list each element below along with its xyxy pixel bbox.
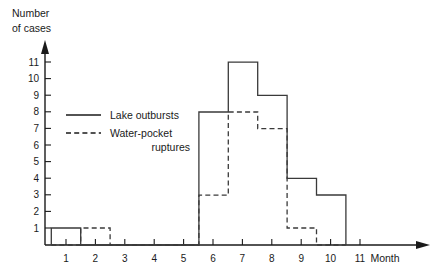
x-tick-label: 1 [63,253,69,264]
y-tick-label: 5 [33,156,39,167]
chart-container: 11 10 9 8 7 6 5 4 3 2 1 1 [0,0,443,277]
y-tick-label: 3 [33,189,39,200]
legend-label-water-pocket-line2: ruptures [151,141,190,153]
y-axis-title: Number of cases [12,7,51,34]
y-axis-arrowhead [41,40,49,54]
y-axis [41,40,49,245]
x-tick-labels: 1 2 3 4 5 6 7 8 9 10 11 [63,253,365,264]
y-ticks [45,62,51,228]
legend-label-lake-outbursts: Lake outbursts [110,109,179,121]
x-tick-label: 9 [298,253,304,264]
x-tick-label: 4 [151,253,157,264]
x-tick-label: 5 [181,253,187,264]
legend-label-water-pocket-line1: Water-pocket [110,127,172,139]
chart-legend: Lake outbursts Water-pocket ruptures [66,109,190,153]
x-tick-label: 8 [269,253,275,264]
x-axis-arrowhead [416,241,430,249]
x-tick-label: 6 [210,253,216,264]
x-tick-label: 11 [355,253,366,264]
y-axis-title-line1: Number [12,7,50,19]
x-tick-label: 10 [325,253,337,264]
y-tick-label: 7 [33,123,39,134]
y-tick-label: 10 [28,73,40,84]
x-axis-title: Month [370,252,399,264]
y-tick-label: 9 [33,90,39,101]
x-tick-label: 7 [240,253,246,264]
histogram-svg: 11 10 9 8 7 6 5 4 3 2 1 1 [0,0,443,277]
x-tick-label: 3 [122,253,128,264]
series-lake-outbursts [51,62,346,245]
y-tick-label: 8 [33,106,39,117]
y-tick-label: 11 [29,57,40,68]
y-tick-label: 6 [33,140,39,151]
y-tick-label: 2 [33,206,39,217]
y-axis-title-line2: of cases [12,22,51,34]
y-tick-labels: 11 10 9 8 7 6 5 4 3 2 1 [28,57,40,234]
y-tick-label: 1 [33,223,39,234]
x-tick-label: 2 [93,253,99,264]
y-tick-label: 4 [33,173,39,184]
